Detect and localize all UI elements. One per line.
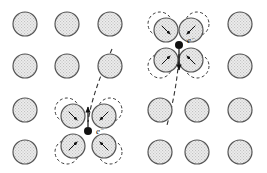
atom-r3c6 [228,98,252,122]
atom-r3c4 [148,98,172,122]
atom-r4c4 [148,140,172,164]
atom-r1c1 [13,12,37,36]
atom-r3c1 [13,98,37,122]
atom-r2c3 [98,54,122,78]
atom-r4c5 [185,140,209,164]
electron-dot-electron-lower-left [84,127,92,135]
atom-r4c6 [228,140,252,164]
electron-dot-electron-upper-right [175,41,183,49]
atom-r1c2 [55,12,79,36]
electron-charge-electron-upper-right: − [191,35,195,41]
electron-charge-electron-lower-left: − [100,126,104,132]
atom-r2c6 [228,54,252,78]
figure-background [0,0,267,173]
atom-r2c1 [13,54,37,78]
atom-r1c3 [98,12,122,36]
atom-r1c6 [228,12,252,36]
lattice-diagram-canvas: e−e− [0,0,267,173]
atom-r2c2 [55,54,79,78]
polaron-lattice-figure: e−e− [0,0,267,173]
atom-r3c5 [185,98,209,122]
atom-r4c1 [13,140,37,164]
